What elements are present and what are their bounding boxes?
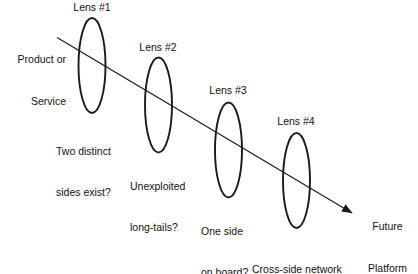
destination-line-1: Future <box>357 219 418 233</box>
lens-1-question-line-2: sides exist? <box>56 186 136 200</box>
lens-1-question-line-1: Two distinct <box>56 145 136 159</box>
product-or-service-line-1: Product or <box>0 52 66 66</box>
lens-3-ellipse <box>215 103 242 198</box>
lens-1-ellipse <box>79 18 106 113</box>
lens-3-title: Lens #3 <box>198 84 258 98</box>
lens-funnel-diagram: Product or Service Lens #1 Two distinct … <box>0 0 418 274</box>
future-platform-opportunity-label: Future Platform Opportunity <box>357 191 418 274</box>
lens-4-title: Lens #4 <box>266 115 326 129</box>
lens-2-title: Lens #2 <box>128 41 188 55</box>
destination-line-2: Platform <box>357 261 418 274</box>
lens-1-title: Lens #1 <box>62 1 122 15</box>
lens-2-ellipse <box>145 58 172 153</box>
lens-2-question-line-1: Unexploited <box>130 180 215 194</box>
lens-1-question: Two distinct sides exist? <box>56 118 136 226</box>
product-or-service-line-2: Service <box>0 94 66 108</box>
